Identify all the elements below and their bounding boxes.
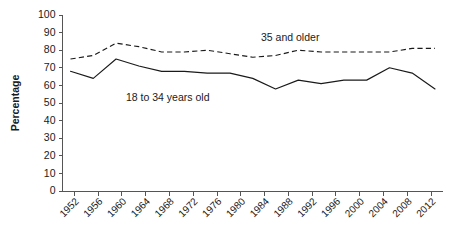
x-axis-tick-label: 1992 (295, 195, 319, 219)
x-axis-tick-label: 1976 (200, 195, 224, 219)
y-axis-tick-label: 50 (44, 96, 56, 108)
y-axis-tick-label: 20 (44, 149, 56, 161)
x-axis-tick-label: 1984 (248, 195, 272, 219)
x-axis-group: 1952195619601964196819721976198019841988… (57, 192, 443, 220)
y-axis-tick-label: 10 (44, 167, 56, 179)
x-axis-tick-label: 1956 (81, 195, 105, 219)
x-axis-tick-label: 1952 (57, 195, 81, 219)
y-axis-tick-label: 40 (44, 114, 56, 126)
x-axis-tick-label: 1996 (319, 195, 343, 219)
y-axis-tick-label: 70 (44, 61, 56, 73)
y-axis-tick-label: 100 (38, 8, 56, 20)
y-axis-tick-label: 60 (44, 79, 56, 91)
percentage-by-age-line-chart: 0102030405060708090100 19521956196019641… (0, 0, 460, 240)
x-axis-tick-labels: 1952195619601964196819721976198019841988… (57, 195, 438, 219)
x-axis-tick-label: 1972 (176, 195, 200, 219)
y-axis-group: 0102030405060708090100 (38, 8, 63, 196)
y-axis-tick-labels: 0102030405060708090100 (38, 8, 56, 196)
x-axis-tick-label: 1964 (129, 195, 153, 219)
x-axis-tick-label: 1988 (271, 195, 295, 219)
x-axis-tick-label: 2000 (343, 195, 367, 219)
x-axis-tick-label: 2004 (366, 195, 390, 219)
annotation-35-and-older: 35 and older (261, 31, 320, 43)
x-axis-tick-label: 2012 (414, 195, 438, 219)
y-axis-tick-label: 0 (50, 184, 56, 196)
y-axis-title: Percentage (9, 75, 21, 132)
series-line-18-to-34 (71, 59, 436, 89)
x-axis-tick-label: 1968 (152, 195, 176, 219)
x-axis-tick-label: 1980 (224, 195, 248, 219)
x-axis-tick-label: 1960 (105, 195, 129, 219)
series-line-35-and-older (71, 43, 436, 59)
y-axis-tick-label: 90 (44, 26, 56, 38)
y-axis-ticks (59, 15, 63, 191)
annotation-18-to-34: 18 to 34 years old (126, 91, 210, 103)
y-axis-tick-label: 80 (44, 43, 56, 55)
x-axis-tick-label: 2008 (390, 195, 414, 219)
y-axis-tick-label: 30 (44, 131, 56, 143)
x-axis-ticks (74, 192, 431, 196)
chart-container: 0102030405060708090100 19521956196019641… (0, 0, 460, 240)
